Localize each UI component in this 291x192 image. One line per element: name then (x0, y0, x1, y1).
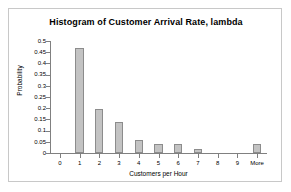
x-axis-tick (139, 154, 140, 158)
x-axis-tick (159, 154, 160, 158)
y-axis-tick (46, 75, 50, 76)
y-axis-tick (46, 142, 50, 143)
x-axis-tick (60, 154, 61, 158)
y-axis-tick-label: 0.1 (12, 127, 46, 133)
y-axis-tick (46, 108, 50, 109)
x-axis-tick (218, 154, 219, 158)
bar (75, 48, 83, 153)
y-axis-line (50, 41, 51, 154)
x-axis-tick-label: 8 (216, 160, 219, 166)
x-axis-tick (237, 154, 238, 158)
y-axis-tick-label: 0.45 (12, 49, 46, 55)
bar (135, 140, 143, 153)
y-axis-tick-label: 0.15 (12, 116, 46, 122)
y-axis-tick (46, 86, 50, 87)
x-axis-tick-label: 1 (78, 160, 81, 166)
chart-frame: Histogram of Customer Arrival Rate, lamb… (8, 8, 282, 182)
y-axis-tick (46, 63, 50, 64)
y-axis-tick (46, 41, 50, 42)
y-axis-tick (46, 119, 50, 120)
bar (95, 109, 103, 153)
y-axis-tick-label: 0.3 (12, 83, 46, 89)
x-axis-title: Customers per Hour (50, 170, 267, 177)
x-axis-tick (178, 154, 179, 158)
x-axis-tick-label: 6 (177, 160, 180, 166)
y-axis-tick-label: 0.5 (12, 38, 46, 44)
x-axis-tick-label: 3 (117, 160, 120, 166)
y-axis-tick-label: 0.35 (12, 71, 46, 77)
y-axis-tick-label: 0.4 (12, 60, 46, 66)
x-axis-tick-label: 7 (196, 160, 199, 166)
bar (194, 149, 202, 153)
y-axis-tick-label: 0.2 (12, 105, 46, 111)
bar (115, 122, 123, 153)
y-axis-tick (46, 153, 50, 154)
y-axis-tick (46, 52, 50, 53)
x-axis-tick-label: 2 (98, 160, 101, 166)
x-axis-tick-label: 4 (137, 160, 140, 166)
y-axis-tick-label: 0.25 (12, 94, 46, 100)
x-axis-tick (257, 154, 258, 158)
bar (253, 144, 261, 153)
chart-title: Histogram of Customer Arrival Rate, lamb… (9, 17, 283, 27)
x-axis-tick (119, 154, 120, 158)
y-axis-tick-label: 0.05 (12, 139, 46, 145)
y-axis-tick (46, 131, 50, 132)
x-axis-tick-label: 9 (236, 160, 239, 166)
x-axis-tick-label: More (250, 160, 264, 166)
y-axis-tick (46, 97, 50, 98)
x-axis-tick-label: 0 (58, 160, 61, 166)
bar (154, 144, 162, 153)
x-axis-tick (80, 154, 81, 158)
x-axis-tick-label: 5 (157, 160, 160, 166)
bar (174, 144, 182, 153)
y-axis-tick-labels: 0.50.450.40.350.30.250.20.150.10.050 (9, 9, 46, 183)
x-axis-tick (99, 154, 100, 158)
y-axis-tick-label: 0 (12, 150, 46, 156)
x-axis-tick (198, 154, 199, 158)
